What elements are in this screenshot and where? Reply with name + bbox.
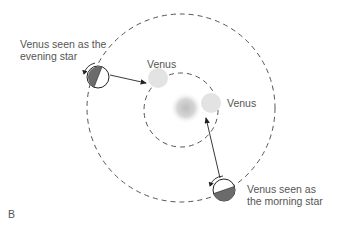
evening-label-line1: Venus seen as the bbox=[20, 38, 106, 50]
morning-sightline-arrow bbox=[206, 118, 220, 178]
earth-evening bbox=[84, 63, 109, 88]
sun bbox=[170, 92, 202, 124]
venus-top-label: Venus bbox=[147, 58, 176, 70]
morning-star-label: Venus seen as the morning star bbox=[247, 183, 323, 207]
venus-right-label: Venus bbox=[227, 97, 256, 109]
venus-phases-diagram: Venus seen as the evening star Venus Ven… bbox=[0, 0, 338, 226]
earth-morning bbox=[210, 176, 235, 201]
evening-star-label: Venus seen as the evening star bbox=[20, 38, 106, 62]
evening-sightline-arrow bbox=[110, 75, 146, 83]
venus-right bbox=[201, 93, 221, 113]
morning-label-line1: Venus seen as bbox=[247, 183, 323, 195]
panel-letter: B bbox=[8, 208, 15, 220]
morning-label-line2: the morning star bbox=[247, 195, 323, 207]
evening-label-line2: evening star bbox=[20, 50, 106, 62]
venus-top bbox=[148, 68, 168, 88]
